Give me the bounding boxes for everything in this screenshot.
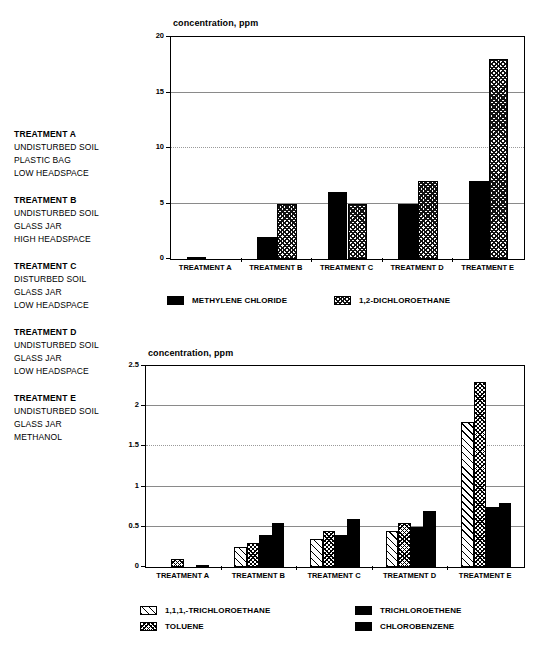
chart-bottom-title: concentration, ppm	[148, 348, 233, 358]
y-axis-tick-label: 2.5	[111, 361, 139, 369]
bar	[386, 531, 398, 567]
bar	[418, 181, 438, 259]
x-axis-tick	[221, 566, 222, 570]
legend-swatch-icon	[140, 622, 157, 631]
y-axis-tick	[141, 405, 145, 406]
y-axis-tick	[141, 566, 145, 567]
gridline	[146, 405, 524, 406]
x-axis-tick-label: TREATMENT C	[311, 264, 382, 272]
y-axis-tick	[141, 526, 145, 527]
y-axis-tick-label: 10	[136, 143, 164, 151]
chart-voc-four-series: concentration, ppm 00.511.522.5TREATMENT…	[0, 330, 550, 650]
bar	[347, 519, 359, 567]
y-axis-tick	[166, 258, 170, 259]
legend-item[interactable]: 1,2-DICHLOROETHANE	[334, 296, 450, 305]
x-axis-tick	[372, 566, 373, 570]
x-axis-tick	[447, 566, 448, 570]
legend-label: 1,1,1,-TRICHLOROETHANE	[165, 606, 270, 615]
y-axis-tick-label: 2	[111, 401, 139, 409]
y-axis-tick	[141, 445, 145, 446]
x-axis-tick-label: TREATMENT C	[296, 572, 372, 580]
y-axis-tick	[166, 36, 170, 37]
y-axis-tick-label: 1.5	[111, 441, 139, 449]
x-axis-tick-label: TREATMENT B	[241, 264, 312, 272]
chart-bottom-legend: 1,1,1,-TRICHLOROETHANETOLUENETRICHLOROET…	[0, 606, 550, 640]
legend-label: METHYLENE CHLORIDE	[192, 296, 287, 305]
bar	[423, 511, 435, 567]
bar	[259, 535, 271, 567]
y-axis-tick	[166, 203, 170, 204]
x-axis-tick-label: TREATMENT E	[452, 264, 523, 272]
x-axis-tick-label: TREATMENT D	[372, 572, 448, 580]
legend-item[interactable]: TOLUENE	[140, 622, 204, 631]
chart-bottom-plot-area	[145, 365, 525, 568]
bar	[486, 507, 498, 567]
x-axis-tick	[382, 258, 383, 262]
gridline	[171, 92, 524, 93]
bar	[247, 543, 259, 567]
legend-swatch-icon	[355, 622, 372, 631]
bar	[411, 527, 423, 567]
legend-swatch-icon	[140, 606, 157, 615]
x-axis-tick	[241, 258, 242, 262]
bar	[328, 192, 348, 259]
legend-label: 1,2-DICHLOROETHANE	[359, 296, 450, 305]
y-axis-tick-label: 20	[136, 32, 164, 40]
x-axis-tick	[296, 566, 297, 570]
bar	[474, 382, 486, 567]
bar	[171, 559, 183, 567]
x-axis-tick-label: TREATMENT D	[382, 264, 453, 272]
x-axis-tick	[452, 258, 453, 262]
legend-label: CHLOROBENZENE	[380, 622, 454, 631]
bar	[196, 565, 208, 567]
legend-item[interactable]: CHLOROBENZENE	[355, 622, 454, 631]
bar	[310, 539, 322, 567]
chart-top-plot-area	[170, 36, 525, 260]
bar	[187, 257, 207, 259]
bar	[257, 237, 277, 259]
bar	[323, 531, 335, 567]
legend-swatch-icon	[167, 296, 184, 305]
bar	[272, 523, 284, 567]
legend-item[interactable]: TRICHLOROETHENE	[355, 606, 462, 615]
y-axis-tick-label: 0.5	[111, 522, 139, 530]
y-axis-tick-label: 5	[136, 199, 164, 207]
bar	[398, 204, 418, 260]
y-axis-tick-label: 0	[111, 562, 139, 570]
legend-item[interactable]: 1,1,1,-TRICHLOROETHANE	[140, 606, 270, 615]
y-axis-tick	[141, 486, 145, 487]
bar	[469, 181, 489, 259]
x-axis-tick-label: TREATMENT A	[170, 264, 241, 272]
gridline	[171, 147, 524, 148]
chart-top-title: concentration, ppm	[173, 18, 258, 28]
bar	[348, 204, 368, 260]
legend-item[interactable]: METHYLENE CHLORIDE	[167, 296, 287, 305]
y-axis-tick	[166, 92, 170, 93]
bar	[489, 59, 509, 259]
bar	[461, 422, 473, 567]
x-axis-tick-label: TREATMENT E	[447, 572, 523, 580]
legend-swatch-icon	[355, 606, 372, 615]
chart-top-legend: METHYLENE CHLORIDE1,2-DICHLOROETHANE	[0, 296, 550, 320]
y-axis-tick	[141, 365, 145, 366]
y-axis-tick	[166, 147, 170, 148]
y-axis-tick-label: 0	[136, 254, 164, 262]
chart-methylene-dichloroethane: concentration, ppm 05101520TREATMENT ATR…	[0, 0, 550, 325]
bar	[234, 547, 246, 567]
bar	[335, 535, 347, 567]
x-axis-tick	[311, 258, 312, 262]
legend-label: TOLUENE	[165, 622, 204, 631]
legend-swatch-icon	[334, 296, 351, 305]
bar	[398, 523, 410, 567]
x-axis-tick-label: TREATMENT B	[221, 572, 297, 580]
y-axis-tick-label: 1	[111, 482, 139, 490]
y-axis-tick-label: 15	[136, 88, 164, 96]
bar	[499, 503, 511, 567]
bar	[277, 204, 297, 260]
x-axis-tick-label: TREATMENT A	[145, 572, 221, 580]
legend-label: TRICHLOROETHENE	[380, 606, 462, 615]
